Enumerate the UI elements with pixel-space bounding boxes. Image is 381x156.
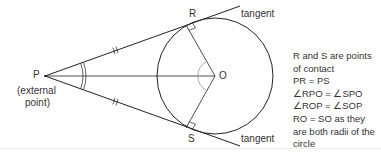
label-P: P	[33, 69, 40, 81]
tangent-line-top	[45, 6, 240, 76]
point-P	[44, 75, 46, 77]
label-tangent-bottom: tangent	[241, 133, 274, 145]
divider	[0, 148, 381, 149]
tangent-line-bottom	[45, 76, 240, 146]
note-line: PR = PS	[293, 75, 375, 88]
note-line: RO = SO as they	[293, 113, 375, 126]
radius-OR	[186, 25, 215, 76]
label-O: O	[219, 70, 227, 82]
note-line: R and S are points	[293, 50, 375, 63]
label-R: R	[189, 8, 196, 20]
label-S: S	[188, 133, 195, 145]
radius-OS	[186, 76, 215, 128]
note-line: of contact	[293, 63, 375, 76]
notes-text-block: R and S are points of contact PR = PS ∠R…	[293, 50, 375, 151]
note-line: are both radii of the	[293, 126, 375, 139]
label-external-point-line2: point)	[25, 97, 50, 109]
label-external-point-line1: (external	[17, 85, 56, 97]
note-line: ∠RPO = ∠SPO	[293, 88, 375, 101]
label-tangent-top: tangent	[241, 8, 274, 20]
diagram-canvas: { "diagram": { "type": "geometry-tangent…	[0, 0, 381, 156]
note-line: ∠ROP = ∠SOP	[293, 100, 375, 113]
